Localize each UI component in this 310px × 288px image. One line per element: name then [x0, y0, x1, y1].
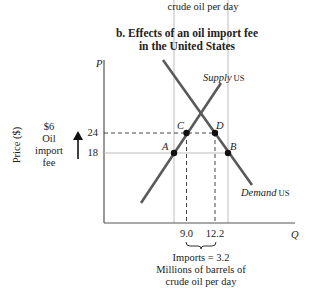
y-axis-title: Price ($): [11, 126, 23, 163]
point-a: [171, 150, 177, 156]
point-c: [183, 130, 189, 136]
point-d-label: D: [215, 120, 224, 131]
units-line-1: Millions of barrels of: [156, 264, 246, 275]
imports-brace: [186, 242, 216, 249]
supply-curve-label: SupplyUS: [203, 72, 245, 83]
up-arrow-icon: [73, 131, 83, 159]
units-line-2: crude oil per day: [166, 276, 238, 287]
x-tick-12: 12.2: [206, 228, 224, 239]
chart-title-line-2: in the United States: [139, 40, 236, 52]
supply-curve: [141, 83, 221, 203]
fee-line-1: $6: [44, 121, 55, 132]
fee-line-3: import: [35, 145, 63, 156]
x-tick-9: 9.0: [180, 228, 193, 239]
imports-label: Imports = 3.2: [173, 252, 230, 263]
y-axis-symbol: P: [95, 58, 103, 69]
oil-import-fee-chart: crude oil per day b. Effects of an oil i…: [0, 0, 310, 288]
top-caption: crude oil per day: [168, 1, 240, 12]
point-c-label: C: [177, 120, 185, 131]
point-b-label: B: [230, 141, 237, 152]
fee-line-4: fee: [43, 157, 56, 168]
demand-curve-label: DemandUS: [240, 187, 290, 198]
y-tick-18: 18: [88, 147, 99, 158]
y-tick-24: 24: [88, 127, 99, 138]
x-axis-symbol: Q: [291, 229, 299, 240]
fee-line-2: Oil: [42, 133, 56, 144]
chart-title-line-1: b. Effects of an oil import fee: [116, 27, 258, 40]
point-a-label: A: [161, 141, 169, 152]
